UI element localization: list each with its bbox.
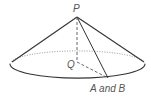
label-P: P xyxy=(73,3,80,14)
right-slant xyxy=(77,17,144,62)
slant-PA xyxy=(77,17,108,78)
radius-QA xyxy=(77,62,108,78)
cone-diagram: P Q A and B xyxy=(0,0,151,107)
label-A-and-B: A and B xyxy=(89,83,126,94)
label-Q: Q xyxy=(67,59,75,70)
left-slant xyxy=(12,17,77,62)
base-front-arc xyxy=(10,64,145,78)
